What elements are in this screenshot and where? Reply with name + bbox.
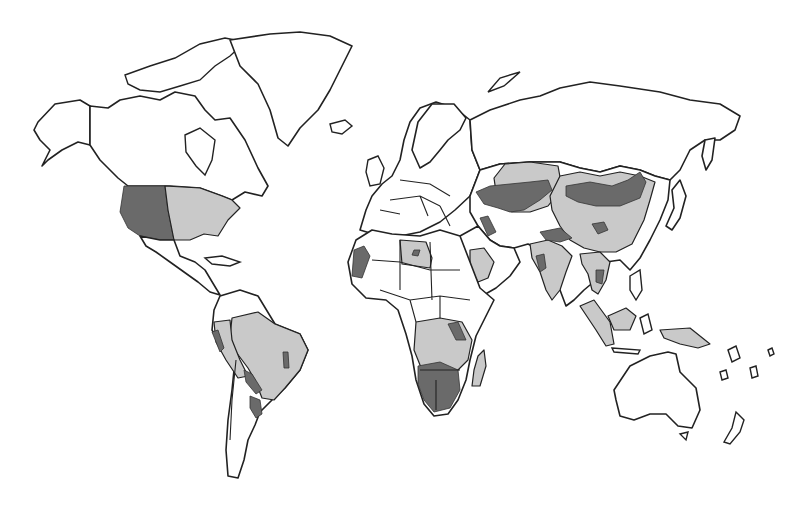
india-west <box>536 254 546 272</box>
kamchatka <box>702 138 715 170</box>
australia <box>614 352 700 428</box>
borneo <box>608 308 636 330</box>
south-america <box>212 290 308 478</box>
brazil-central <box>283 352 289 368</box>
philippines <box>630 270 642 300</box>
caribbean <box>205 256 240 266</box>
sumatra <box>580 300 614 346</box>
novaya-zemlya <box>488 72 520 92</box>
oceania <box>614 346 774 444</box>
canada <box>90 92 268 200</box>
madagascar <box>472 350 486 386</box>
sulawesi <box>640 314 652 334</box>
tasmania <box>680 432 688 440</box>
arctic-islands <box>125 38 245 92</box>
british-isles <box>366 156 384 186</box>
world-map <box>0 0 808 507</box>
mexico-central-america <box>140 236 220 295</box>
pacific-islands <box>720 346 774 380</box>
new-guinea <box>660 328 710 348</box>
alaska <box>34 100 90 166</box>
new-zealand <box>724 412 744 444</box>
iceland <box>330 120 352 134</box>
north-america <box>34 32 352 295</box>
asia <box>456 72 740 354</box>
java <box>612 348 640 354</box>
europe <box>360 102 480 236</box>
